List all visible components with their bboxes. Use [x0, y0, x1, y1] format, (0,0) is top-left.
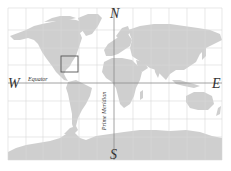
east-label: E	[212, 77, 221, 91]
new-zealand	[216, 106, 221, 116]
west-label: W	[8, 77, 20, 91]
antarctic-peninsula	[64, 126, 78, 134]
southeast-asia-islands	[172, 80, 200, 88]
madagascar	[140, 90, 143, 100]
south-label: S	[110, 148, 117, 162]
equator-label: Equator	[28, 76, 48, 82]
north-label: N	[110, 7, 119, 21]
land-masses	[8, 14, 222, 160]
greenland	[78, 14, 102, 36]
prime-meridian-label: Prime Meridian	[101, 91, 107, 131]
world-map	[0, 0, 231, 171]
